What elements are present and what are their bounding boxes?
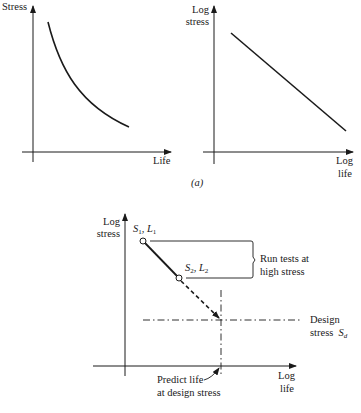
x-axis-label: Life — [153, 155, 171, 167]
x-axis-label-line2: life — [338, 168, 352, 180]
y-axis-label-line1: Log — [84, 216, 120, 228]
stress-life-curve — [48, 22, 129, 127]
panel-a-label: (a) — [191, 177, 203, 189]
point1-label: S1, L1 — [133, 223, 156, 238]
point2-label: S2, L2 — [185, 262, 208, 277]
y-axis-label-line2: stress — [84, 228, 120, 240]
bottom-chart — [93, 214, 302, 380]
design-label-line2: stress Sd — [310, 327, 347, 342]
x-axis-label-line1: Log — [278, 370, 295, 382]
bracket-label-line2: high stress — [260, 266, 305, 278]
y-axis-label: Stress — [2, 1, 27, 13]
predict-pointer — [204, 368, 219, 380]
y-axis-label-line1: Log — [174, 4, 209, 16]
y-axis-label-line2: stress — [174, 16, 209, 28]
top-left-chart — [22, 6, 171, 162]
bracket-label-line1: Run tests at — [260, 253, 309, 265]
design-label-line1: Design — [310, 314, 340, 326]
extrapolation-dashed — [181, 281, 219, 318]
point-s2-l2 — [176, 275, 182, 281]
x-axis-label-line1: Log — [336, 155, 353, 167]
predict-label-line1: Predict life — [157, 374, 203, 386]
top-right-chart — [203, 6, 353, 164]
diagram-canvas — [0, 0, 361, 413]
point-s1-l1 — [140, 238, 146, 244]
predict-label-line2: at design stress — [157, 387, 221, 399]
log-log-line — [231, 33, 346, 131]
x-axis-label-line2: life — [280, 383, 294, 395]
tested-segment — [145, 243, 177, 276]
